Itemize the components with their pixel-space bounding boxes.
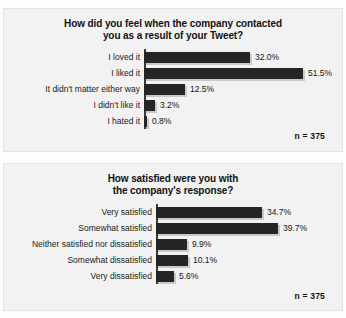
bar-value-label: 51.5%: [308, 68, 332, 78]
category-label: I loved it: [4, 52, 144, 62]
category-label: I hated it: [4, 116, 144, 126]
chart-panel-company-response-satisfaction: How satisfied were you with the company'…: [3, 163, 343, 311]
bar: [144, 84, 185, 95]
bar-value-label: 39.7%: [283, 223, 307, 233]
bar-row: It didn't matter either way 12.5%: [4, 81, 342, 97]
bar: [144, 100, 155, 111]
bar-area: 3.2%: [144, 97, 342, 113]
bar-wrap: [156, 223, 278, 234]
bar-wrap: [144, 68, 303, 79]
bar-wrap: [156, 255, 188, 266]
bar-rows-1: I loved it 32.0% I liked it 51.5: [4, 49, 342, 129]
bar-area: 5.6%: [156, 268, 342, 284]
figure-two-bar-charts: How did you feel when the company contac…: [0, 0, 346, 318]
category-label: Very satisfied: [4, 207, 156, 217]
bar-area: 34.7%: [156, 204, 342, 220]
bar: [156, 271, 174, 282]
sample-size-note-2: n = 375: [295, 291, 325, 301]
bar: [156, 223, 278, 234]
category-label: I didn't like it: [4, 100, 144, 110]
bar-value-label: 3.2%: [160, 100, 179, 110]
bar: [144, 68, 303, 79]
bar-row: I hated it 0.8%: [4, 113, 342, 129]
bar-wrap: [156, 207, 262, 218]
bar-value-label: 34.7%: [267, 207, 291, 217]
bar-row: Very satisfied 34.7%: [4, 204, 342, 220]
bar-value-label: 12.5%: [190, 84, 214, 94]
plot-area-1: I loved it 32.0% I liked it 51.5: [4, 49, 342, 129]
plot-area-2: Very satisfied 34.7% Somewhat satisfied: [4, 204, 342, 284]
chart-title-2: How satisfied were you with the company'…: [4, 173, 342, 197]
bar-row: I didn't like it 3.2%: [4, 97, 342, 113]
bar-wrap: [156, 271, 174, 282]
bar: [156, 207, 262, 218]
category-label: Very dissatisfied: [4, 271, 156, 281]
category-label: Somewhat satisfied: [4, 223, 156, 233]
bar: [156, 255, 188, 266]
chart-title-1: How did you feel when the company contac…: [4, 18, 342, 42]
bar-area: 0.8%: [144, 113, 342, 129]
bar-value-label: 10.1%: [193, 255, 217, 265]
bar-area: 51.5%: [144, 65, 342, 81]
chart-panel-tweet-response-feeling: How did you feel when the company contac…: [3, 8, 343, 152]
category-label: Somewhat dissatisfied: [4, 255, 156, 265]
bar-area: 12.5%: [144, 81, 342, 97]
bar-row: Very dissatisfied 5.6%: [4, 268, 342, 284]
bar-wrap: [144, 116, 147, 127]
sample-size-note-1: n = 375: [295, 131, 325, 141]
category-label: It didn't matter either way: [4, 84, 144, 94]
bar-wrap: [144, 100, 155, 111]
bar-row: Somewhat satisfied 39.7%: [4, 220, 342, 236]
category-label: Neither satisfied nor dissatisfied: [4, 239, 156, 249]
bar-row: Somewhat dissatisfied 10.1%: [4, 252, 342, 268]
bar-rows-2: Very satisfied 34.7% Somewhat satisfied: [4, 204, 342, 284]
bar-value-label: 9.9%: [192, 239, 211, 249]
category-label: I liked it: [4, 68, 144, 78]
bar-row: Neither satisfied nor dissatisfied 9.9%: [4, 236, 342, 252]
bar-area: 10.1%: [156, 252, 342, 268]
bar: [156, 239, 187, 250]
bar: [144, 116, 147, 127]
bar-value-label: 0.8%: [152, 116, 171, 126]
bar-value-label: 32.0%: [255, 52, 279, 62]
bar-area: 39.7%: [156, 220, 342, 236]
bar-area: 32.0%: [144, 49, 342, 65]
bar-row: I loved it 32.0%: [4, 49, 342, 65]
bar-area: 9.9%: [156, 236, 342, 252]
bar-wrap: [144, 52, 250, 63]
bar-wrap: [144, 84, 185, 95]
bar: [144, 52, 250, 63]
bar-row: I liked it 51.5%: [4, 65, 342, 81]
bar-value-label: 5.6%: [179, 271, 198, 281]
bar-wrap: [156, 239, 187, 250]
